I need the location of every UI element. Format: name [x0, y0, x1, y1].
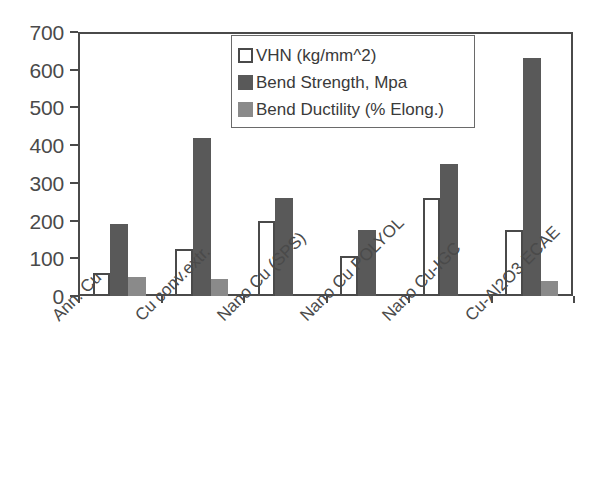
y-tick-label-500: 500 — [30, 97, 64, 118]
legend-label-vhn: VHN (kg/mm^2) — [256, 47, 376, 65]
bar — [440, 164, 458, 296]
x-tick-mark-6 — [573, 296, 575, 303]
y-tick-label-100: 100 — [30, 248, 64, 269]
bar — [128, 277, 146, 296]
bar — [541, 281, 559, 296]
y-tick-mark-300 — [70, 182, 78, 184]
y-tick-mark-600 — [70, 69, 78, 71]
legend-label-bend-ductility: Bend Ductility (% Elong.) — [256, 101, 444, 119]
y-axis: 0100200300400500600700 — [0, 0, 78, 481]
y-tick-label-200: 200 — [30, 210, 64, 231]
y-tick-label-300: 300 — [30, 172, 64, 193]
legend-swatch-bend-strength-icon — [238, 75, 253, 90]
y-tick-mark-400 — [70, 144, 78, 146]
bar-chart-figure: 0100200300400500600700 VHN (kg/mm^2) Ben… — [0, 0, 600, 481]
chart-legend: VHN (kg/mm^2) Bend Strength, Mpa Bend Du… — [231, 35, 475, 128]
legend-swatch-bend-ductility-icon — [238, 102, 253, 117]
legend-item-bend-ductility: Bend Ductility (% Elong.) — [238, 96, 474, 123]
y-tick-mark-200 — [70, 220, 78, 222]
legend-item-bend-strength: Bend Strength, Mpa — [238, 69, 474, 96]
bar — [211, 279, 229, 296]
y-tick-label-600: 600 — [30, 59, 64, 80]
y-tick-mark-700 — [70, 31, 78, 33]
y-tick-label-700: 700 — [30, 22, 64, 43]
legend-label-bend-strength: Bend Strength, Mpa — [256, 74, 407, 92]
legend-swatch-vhn-icon — [238, 48, 253, 63]
y-tick-label-400: 400 — [30, 135, 64, 156]
legend-item-vhn: VHN (kg/mm^2) — [238, 42, 474, 69]
bar — [110, 224, 128, 296]
y-tick-mark-500 — [70, 106, 78, 108]
y-tick-mark-100 — [70, 257, 78, 259]
